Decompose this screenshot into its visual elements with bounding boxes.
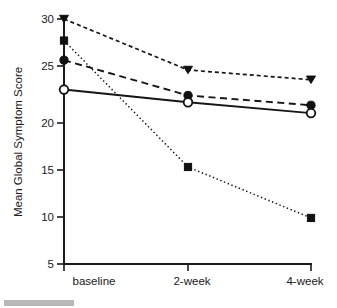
data-point-marker xyxy=(184,163,191,170)
y-tick-label-30: 30 xyxy=(41,13,54,25)
y-tick-label-10: 10 xyxy=(41,211,54,223)
x-tick-label-2week: 2-week xyxy=(173,275,210,287)
y-axis-title: Mean Global Symptom Score xyxy=(12,67,24,217)
chart-container: 5 10 15 20 25 30 baseline 2-week 4-week … xyxy=(0,0,337,308)
data-point-marker xyxy=(307,109,316,118)
y-tick-label-15: 15 xyxy=(41,164,54,176)
data-point-marker xyxy=(184,66,193,73)
x-tick-label-4week: 4-week xyxy=(286,275,323,287)
data-point-marker xyxy=(184,98,193,107)
line-chart: 5 10 15 20 25 30 baseline 2-week 4-week … xyxy=(0,0,337,308)
data-point-marker xyxy=(60,85,69,94)
footer-gray-bar xyxy=(4,300,74,306)
data-point-marker xyxy=(60,37,67,44)
series-markers-layer xyxy=(60,15,316,221)
data-point-marker xyxy=(307,214,314,221)
y-tick-label-5: 5 xyxy=(48,258,54,270)
data-point-marker xyxy=(60,56,68,64)
x-tick-label-baseline: baseline xyxy=(73,275,116,287)
y-tick-label-20: 20 xyxy=(41,117,54,129)
y-tick-label-25: 25 xyxy=(41,60,54,72)
